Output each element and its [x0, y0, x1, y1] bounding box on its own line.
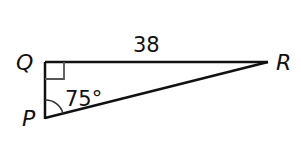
vertex-label-q: Q	[16, 50, 33, 75]
angle-label-p: 75°	[65, 87, 102, 111]
angle-arc-p	[45, 100, 63, 114]
vertex-label-p: P	[22, 106, 36, 131]
triangle-diagram: Q P R 38 75°	[0, 0, 301, 154]
right-angle-mark	[45, 62, 64, 79]
side-length-label: 38	[133, 33, 160, 57]
vertex-label-r: R	[276, 50, 291, 75]
